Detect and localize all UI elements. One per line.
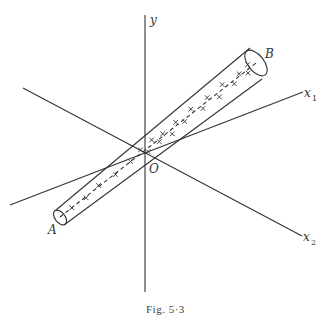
- cylinder-bottom-edge: [64, 79, 262, 225]
- x1-axis: [10, 92, 303, 205]
- data-point-cross: [220, 82, 225, 87]
- data-point-cross: [201, 106, 206, 111]
- origin-label: O: [149, 162, 159, 176]
- point-a-label: A: [47, 223, 57, 237]
- cylinder-top-edge: [56, 48, 250, 210]
- x2-axis: [23, 88, 302, 236]
- y-axis-label: y: [149, 13, 157, 27]
- data-point-cross: [173, 120, 178, 125]
- x2-axis-subscript: 2: [311, 238, 316, 247]
- data-point-cross: [69, 205, 74, 210]
- data-point-cross: [246, 71, 251, 76]
- data-point-cross: [149, 138, 154, 143]
- data-point-cross: [182, 119, 187, 124]
- data-point-cross: [217, 95, 222, 100]
- x1-axis-label: x: [304, 86, 311, 100]
- data-point-cross: [232, 82, 237, 87]
- figure-caption: Fig. 5·3: [146, 303, 185, 315]
- point-cylinder: [51, 46, 272, 227]
- data-point-cross: [157, 139, 162, 144]
- data-points: [69, 62, 250, 210]
- x1-axis-subscript: 1: [312, 94, 317, 103]
- point-b-label: B: [264, 47, 274, 61]
- data-point-cross: [245, 62, 250, 67]
- diagram-canvas: y x 1 x 2 O A B Fig. 5·3: [0, 0, 323, 318]
- data-point-cross: [160, 132, 165, 137]
- x2-axis-label: x: [303, 230, 310, 244]
- data-point-cross: [170, 132, 175, 137]
- data-point-cross: [205, 95, 210, 100]
- data-point-cross: [128, 159, 133, 164]
- data-point-cross: [237, 71, 242, 76]
- data-point-cross: [189, 107, 194, 112]
